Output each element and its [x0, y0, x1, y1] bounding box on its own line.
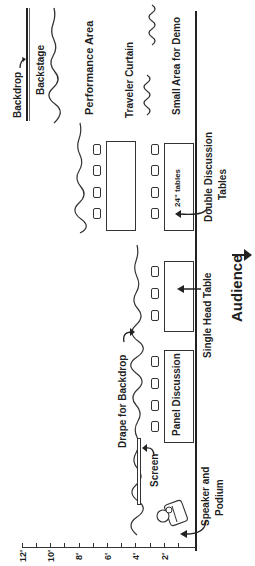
drape-wavy-line-upper — [76, 123, 84, 233]
screen — [137, 438, 141, 505]
scale-tick — [135, 543, 136, 548]
single-head-table-label: Single Head Table — [203, 273, 213, 358]
chair — [151, 208, 159, 219]
scale-label-6: 6' — [104, 553, 113, 560]
scale-tick — [164, 543, 165, 548]
speaker-label-line1: Speaker and — [201, 467, 211, 526]
speaker-label-line2: Podium — [215, 479, 225, 516]
scale-tick — [50, 543, 51, 548]
rear-discussion-table — [106, 141, 136, 231]
scale-label-10: 10' — [47, 550, 56, 562]
chair — [151, 266, 159, 277]
back-curtain-wavy-line — [50, 8, 58, 123]
scale-tick — [36, 543, 37, 548]
scale-tick — [64, 543, 65, 548]
chair — [151, 187, 159, 198]
scale-tick — [121, 543, 122, 548]
chair — [93, 165, 101, 176]
audience-label: Audience — [229, 254, 244, 322]
small-area-for-demo-label: Small Area for Demo — [172, 17, 182, 115]
backdrop-label: Backdrop — [13, 72, 23, 118]
chair — [151, 165, 159, 176]
screen-label: Screen — [150, 454, 160, 487]
panel-discussion-label: Panel Discussion — [172, 353, 182, 436]
chair — [151, 310, 159, 321]
scale-label-4: 4' — [132, 553, 141, 560]
scale-tick — [150, 543, 151, 548]
scale-label-12: 12' — [19, 550, 28, 562]
scale-tick — [107, 543, 108, 548]
drape-arrow-icon — [120, 328, 136, 344]
traveler-curtain-label: Traveler Curtain — [125, 42, 135, 118]
single-head-table — [164, 261, 194, 332]
head-table-arrow-icon — [177, 284, 201, 294]
scale-label-2: 2' — [161, 553, 170, 560]
scale-ruler-line — [22, 547, 196, 548]
backdrop-arrow-icon — [16, 56, 28, 70]
tables-24-label: 24" tables — [174, 169, 182, 207]
traveler-curtain-right-icon — [145, 5, 159, 45]
chair — [151, 356, 159, 367]
chair — [151, 144, 159, 155]
scale-tick — [79, 543, 80, 548]
chair — [93, 187, 101, 198]
performance-area-label: Performance Area — [84, 21, 95, 115]
chair — [151, 378, 159, 389]
screen-arrow-icon — [142, 444, 156, 458]
drape-for-backdrop-label: Drape for Backdrop — [118, 355, 128, 448]
chair — [151, 400, 159, 411]
backstage-label: Backstage — [36, 45, 46, 95]
chair — [93, 208, 101, 219]
chair — [151, 288, 159, 299]
backdrop-line-inner — [29, 8, 30, 121]
stage-front-edge — [195, 11, 197, 551]
scale-tick — [93, 543, 94, 548]
scale-label-8: 8' — [75, 553, 84, 560]
traveler-curtain-left-icon — [140, 75, 154, 120]
chair — [151, 421, 159, 432]
chair — [93, 144, 101, 155]
scale-tick — [22, 543, 23, 548]
double-discussion-label-line2: Tables — [218, 169, 228, 200]
double-discussion-label-line1: Double Discussion — [204, 132, 214, 222]
audience-arrow-icon — [232, 248, 252, 262]
scale-tick — [178, 543, 179, 548]
